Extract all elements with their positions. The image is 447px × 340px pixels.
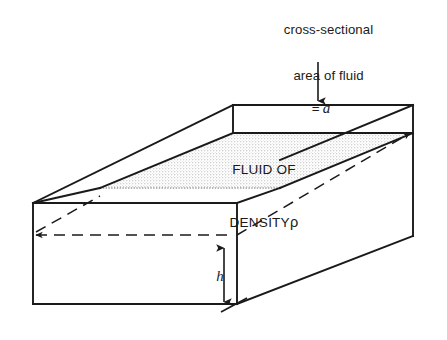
equals-sign: = [312, 101, 320, 116]
fluid-label-line-1: FLUID OF [232, 162, 296, 177]
area-symbol: a [320, 100, 331, 116]
density-symbol: ρ [290, 214, 298, 230]
fluid-density-label: FLUID OF DENSITYρ [190, 145, 322, 249]
cross-section-callout: cross-sectional area of fluid =a [232, 6, 410, 149]
callout-line-2: area of fluid [293, 68, 363, 83]
corner-extensions [221, 298, 247, 312]
height-symbol-label: h [210, 268, 230, 286]
fluid-label-line-2: DENSITY [230, 215, 290, 230]
callout-equation: =a [232, 100, 410, 118]
figure-container: cross-sectional area of fluid =a FLUID O… [0, 0, 447, 340]
callout-line-1: cross-sectional [284, 22, 373, 37]
